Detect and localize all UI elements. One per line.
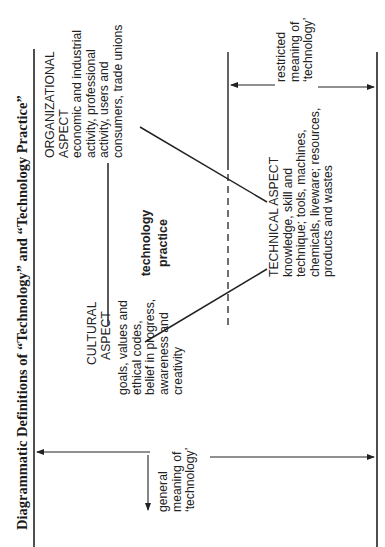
diagram-stage: Diagrammatic Definitions of “Technology”… (0, 0, 385, 547)
arrow-overlay (0, 0, 385, 547)
